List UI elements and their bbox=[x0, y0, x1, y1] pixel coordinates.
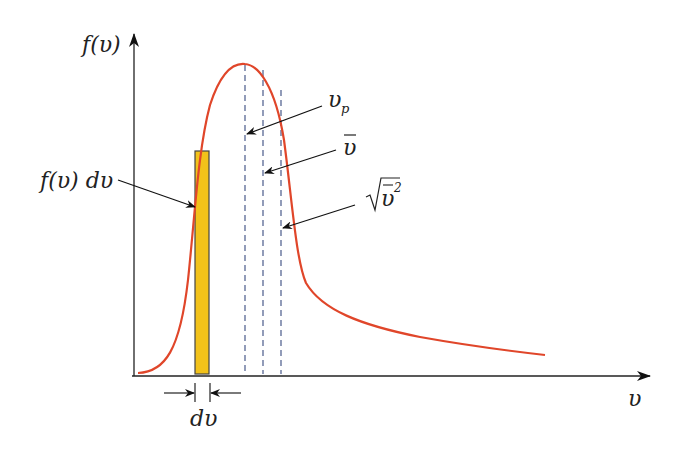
strip-area-label: f(υ) dυ bbox=[38, 168, 113, 193]
mean-arrow bbox=[265, 150, 336, 173]
strip-area-arrow bbox=[118, 180, 195, 207]
speed-markers bbox=[245, 65, 281, 374]
rms-label: υ bbox=[381, 186, 394, 211]
mean-label: υ bbox=[343, 135, 356, 160]
strip-width-indicator bbox=[164, 383, 241, 402]
most-probable-label: υ bbox=[328, 87, 341, 112]
strip-width-label: dυ bbox=[190, 406, 217, 431]
y-axis-label: f(υ) bbox=[80, 32, 121, 57]
x-axis-label: υ bbox=[628, 386, 641, 411]
distribution-diagram: f(υ) υ f(υ) dυ υ p υ υ 2 dυ bbox=[0, 0, 678, 464]
rms-superscript: 2 bbox=[393, 181, 402, 195]
most-probable-subscript: p bbox=[341, 101, 350, 116]
rms-label-group: υ 2 bbox=[366, 178, 402, 211]
most-probable-arrow bbox=[247, 106, 322, 134]
